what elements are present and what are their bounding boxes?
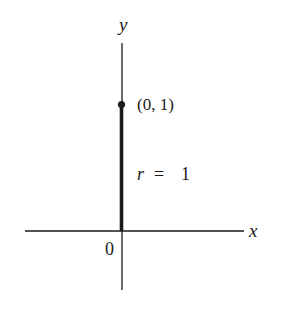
x-axis-label: x: [248, 220, 258, 241]
segment-label-value: 1: [181, 164, 190, 184]
segment-label-equals: =: [154, 164, 164, 184]
point-marker: [118, 101, 125, 108]
segment-label-variable: r: [137, 164, 145, 184]
point-label: (0, 1): [137, 95, 174, 114]
polar-diagram: y x 0 (0, 1) r = 1: [0, 0, 286, 309]
origin-label: 0: [105, 239, 114, 259]
y-axis-label: y: [117, 14, 128, 35]
